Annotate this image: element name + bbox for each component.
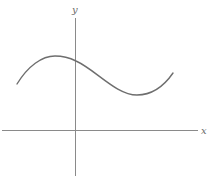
function-curve (17, 56, 173, 95)
function-graph: x y (0, 0, 210, 176)
y-axis-label: y (71, 4, 78, 15)
x-axis-label: x (201, 125, 207, 136)
